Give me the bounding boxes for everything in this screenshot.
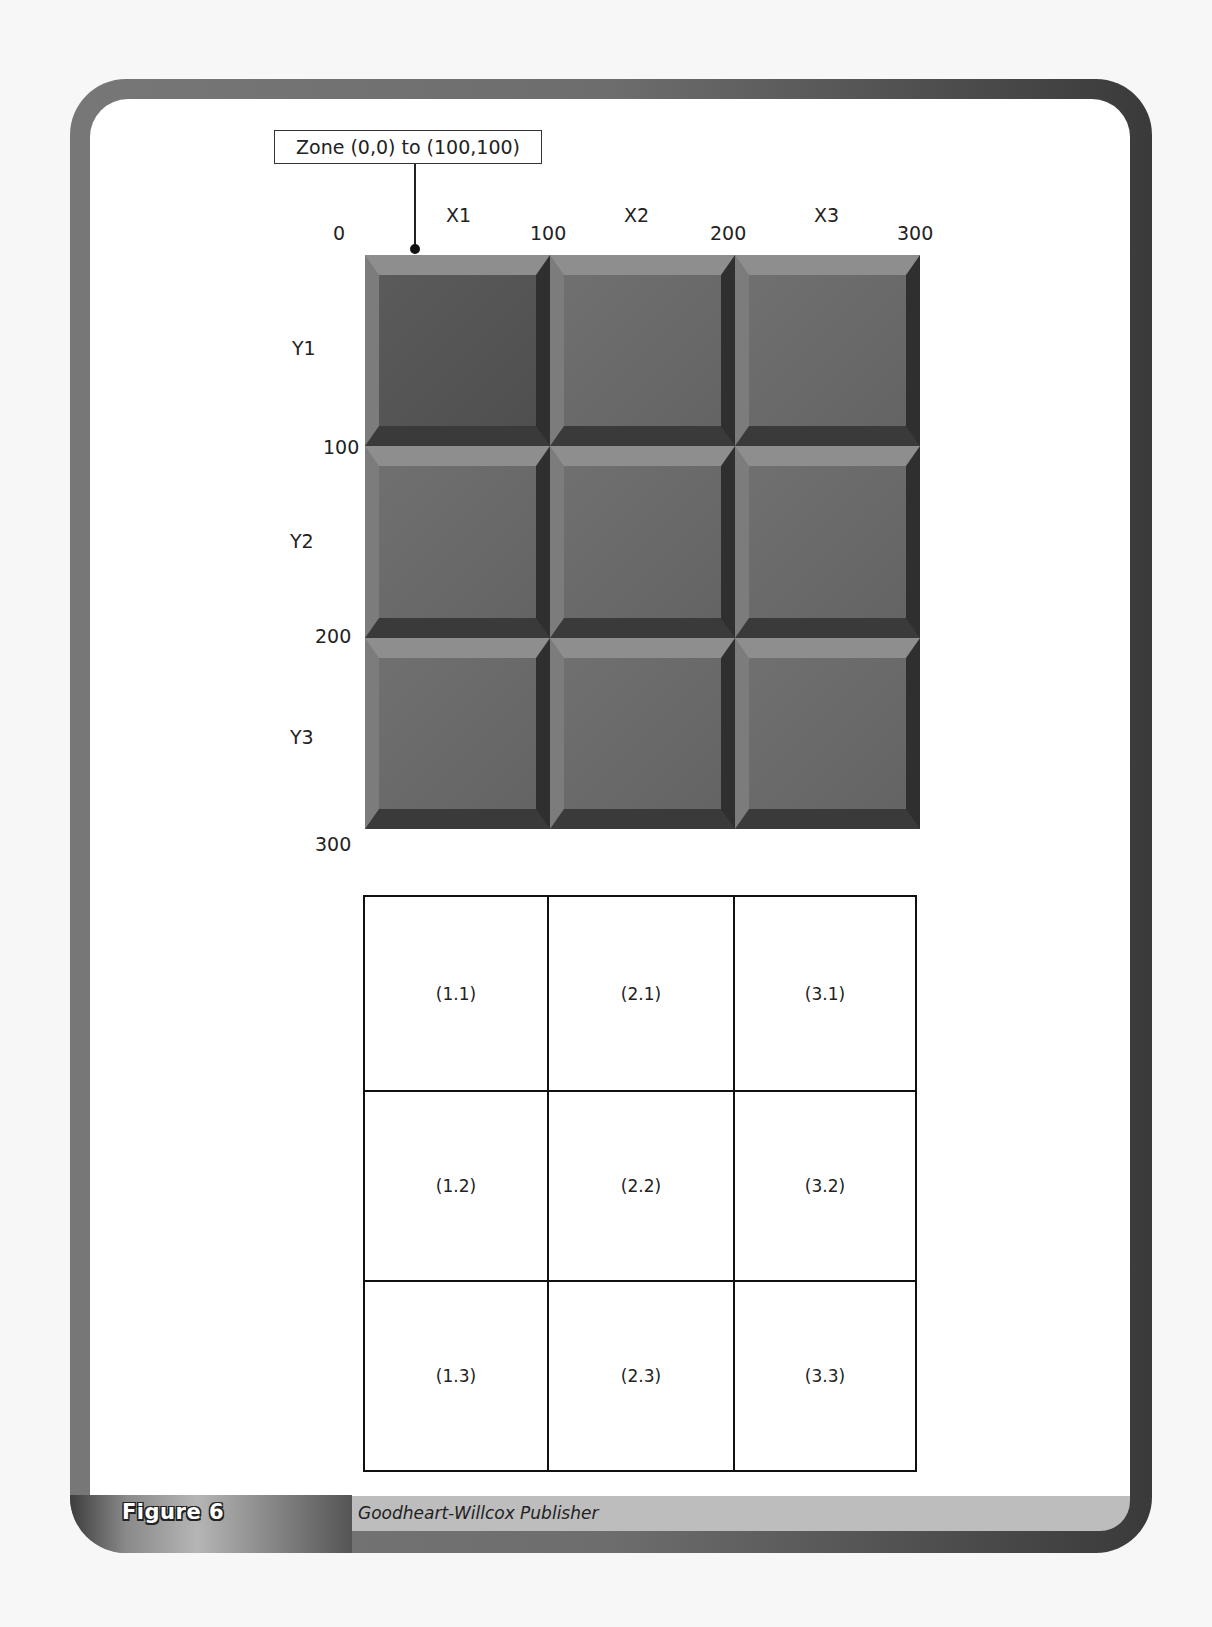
zone-tile-x2-y2 (550, 446, 735, 637)
x-col-label-2: X2 (624, 204, 649, 226)
zone-tile-x1-y2 (365, 446, 550, 637)
table-cell: (3.3) (735, 1282, 915, 1470)
y-tick-100: 100 (323, 436, 359, 458)
zone-tile-x2-y3 (550, 638, 735, 829)
zone-tile-x1-y3 (365, 638, 550, 829)
y-row-label-3: Y3 (290, 726, 314, 748)
zone-index-table: (1.1) (2.1) (3.1) (1.2) (2.2) (3.2) (1.3… (363, 895, 917, 1472)
zone-tile-x3-y3 (735, 638, 920, 829)
table-cell: (2.3) (549, 1282, 735, 1470)
table-cell: (1.1) (365, 897, 549, 1092)
zone-callout: Zone (0,0) to (100,100) (274, 130, 542, 164)
y-tick-200: 200 (315, 625, 351, 647)
zone-tile-x3-y1 (735, 255, 920, 446)
y-tick-300: 300 (315, 833, 351, 855)
table-cell: (1.3) (365, 1282, 549, 1470)
x-tick-200: 200 (710, 222, 746, 244)
zone-tile-x2-y1 (550, 255, 735, 446)
x-col-label-3: X3 (814, 204, 839, 226)
x-tick-0: 0 (333, 222, 345, 244)
x-tick-300: 300 (897, 222, 933, 244)
figure-label: Figure 6 (122, 1500, 224, 1524)
zone-tile-x1-y1 (365, 255, 550, 446)
zone-tile-x3-y2 (735, 446, 920, 637)
x-tick-100: 100 (530, 222, 566, 244)
zone-grid (365, 255, 920, 829)
table-cell: (3.1) (735, 897, 915, 1092)
x-col-label-1: X1 (446, 204, 471, 226)
table-cell: (1.2) (365, 1092, 549, 1282)
callout-text: Zone (0,0) to (100,100) (296, 136, 520, 158)
table-cell: (2.2) (549, 1092, 735, 1282)
table-cell: (2.1) (549, 897, 735, 1092)
callout-anchor-dot (410, 244, 420, 254)
table-cell: (3.2) (735, 1092, 915, 1282)
publisher-credit: Goodheart-Willcox Publisher (358, 1503, 598, 1523)
y-row-label-2: Y2 (290, 530, 314, 552)
y-row-label-1: Y1 (292, 337, 316, 359)
callout-leader-line (414, 164, 416, 248)
